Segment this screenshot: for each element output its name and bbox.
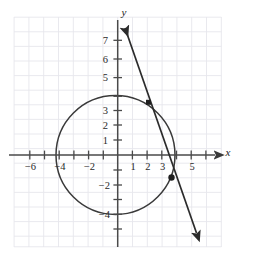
line-curve bbox=[125, 28, 197, 233]
intersection-point-upper bbox=[146, 100, 151, 105]
x-tick-label--2: −2 bbox=[84, 161, 95, 172]
y-tick-label-1: 1 bbox=[103, 135, 108, 146]
x-tick-label--4: −4 bbox=[54, 161, 66, 172]
x-tick-label-2: 2 bbox=[145, 161, 150, 172]
coordinate-graph-figure: x y −6 −4 −2 1 2 3 5 7 6 5 3 2 1 −2 −4 bbox=[0, 0, 257, 259]
intersection-point-lower bbox=[168, 174, 174, 180]
y-axis-label: y bbox=[121, 6, 127, 18]
x-tick-label-3: 3 bbox=[160, 161, 165, 172]
y-tick-label-2: 2 bbox=[103, 120, 108, 131]
y-tick-label-3: 3 bbox=[103, 105, 108, 116]
axis-lines bbox=[9, 20, 215, 247]
y-tick-label-5: 5 bbox=[103, 72, 108, 83]
x-tick-label-5: 5 bbox=[189, 161, 194, 172]
x-axis-label: x bbox=[225, 146, 231, 158]
y-tick-label--2: −2 bbox=[99, 180, 110, 191]
x-tick-label--6: −6 bbox=[25, 161, 36, 172]
y-tick-label-6: 6 bbox=[103, 54, 108, 65]
x-tick-label-1: 1 bbox=[130, 161, 135, 172]
y-tick-label-7: 7 bbox=[103, 35, 108, 46]
graph-canvas: x y −6 −4 −2 1 2 3 5 7 6 5 3 2 1 −2 −4 bbox=[0, 0, 257, 259]
y-tick-label--4: −4 bbox=[99, 209, 111, 220]
